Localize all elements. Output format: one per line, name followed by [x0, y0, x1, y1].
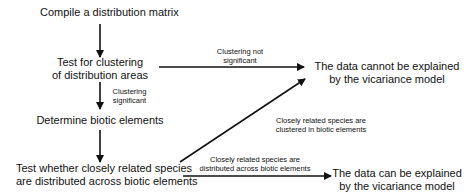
node-cannot-explain: The data cannot be explained by the vica…: [312, 60, 462, 86]
label-clustered-in-biotic: Closely related species are clustered in…: [266, 116, 376, 134]
node-can-explain: The data can be explained by the vicaria…: [327, 167, 467, 193]
node-test-clustering: Test for clustering of distribution area…: [50, 56, 150, 82]
label-distributed-across-biotic: Closely related species are distributed …: [190, 155, 320, 173]
label-clustering-not-significant: Clustering not significant: [210, 47, 270, 65]
label-clustering-significant: Clustering significant: [107, 87, 152, 105]
node-compile-matrix: Compile a distribution matrix: [40, 6, 162, 19]
node-determine-biotic: Determine biotic elements: [35, 114, 165, 127]
node-test-species: Test whether closely related species are…: [16, 162, 184, 188]
